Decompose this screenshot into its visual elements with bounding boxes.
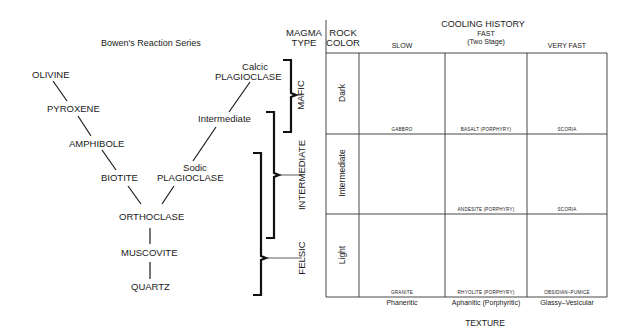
rock-color-dark: Dark	[337, 73, 347, 113]
mineral-olivine: OLIVINE	[32, 70, 70, 80]
cell-obsidian-pumice: OBSIDIAN–PUMICE	[527, 290, 607, 295]
mineral-intermediate-plagioclase: Intermediate	[198, 114, 251, 124]
cell-rhyolite: RHYOLITE (PORPHYRY)	[445, 290, 527, 295]
cell-scoria-1: SCORIA	[527, 127, 607, 132]
mineral-calcic-plagioclase: PLAGIOCLASE	[215, 72, 282, 82]
rock-color-header-2: COLOR	[326, 38, 360, 48]
texture-phaneritic: Phaneritic	[359, 299, 445, 306]
cooling-very-fast: VERY FAST	[527, 42, 607, 49]
mineral-amphibole: AMPHIBOLE	[69, 139, 124, 149]
mineral-pyroxene: PYROXENE	[47, 104, 100, 114]
mineral-quartz: QUARTZ	[131, 282, 170, 292]
magma-mafic: MAFIC	[296, 80, 306, 110]
texture-title: TEXTURE	[440, 318, 530, 328]
texture-aphanitic: Aphanitic (Porphyritic)	[441, 299, 531, 306]
cooling-history-title: COOLING HISTORY	[359, 19, 607, 29]
magma-felsic: FELSIC	[297, 238, 307, 278]
rock-color-light: Light	[337, 235, 347, 275]
mineral-muscovite: MUSCOVITE	[121, 248, 177, 258]
cell-gabbro: GABBRO	[359, 127, 445, 132]
cooling-fast: FAST	[445, 30, 527, 37]
mineral-sodic-plagioclase: PLAGIOCLASE	[157, 173, 224, 183]
diagram-lines	[0, 0, 638, 335]
bowen-title: Bowen's Reaction Series	[101, 38, 201, 48]
cell-basalt: BASALT (PORPHYRY)	[445, 127, 527, 132]
mineral-biotite: BIOTITE	[101, 173, 138, 183]
magma-intermediate: INTERMEDIATE	[297, 135, 307, 215]
rock-color-intermediate: Intermediate	[337, 143, 347, 203]
cooling-fast-two-stage: (Two Stage)	[445, 38, 527, 45]
texture-glassy: Glassy–Vesicular	[527, 299, 607, 306]
cell-scoria-2: SCORIA	[527, 207, 607, 212]
cooling-slow: SLOW	[359, 42, 445, 49]
magma-type-header-2: TYPE	[282, 38, 326, 48]
mineral-orthoclase: ORTHOCLASE	[119, 212, 184, 222]
cell-andesite: ANDESITE (PORPHYRY)	[445, 207, 527, 212]
cell-granite: GRANITE	[359, 290, 445, 295]
